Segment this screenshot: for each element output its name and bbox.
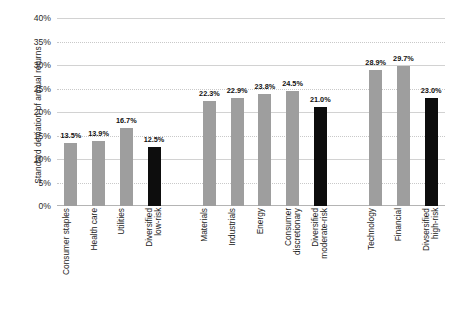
x-axis-category-label: Technology (367, 208, 376, 250)
y-axis-tick-label: 35% (34, 37, 51, 47)
y-axis-tick-label: 20% (34, 107, 51, 117)
bar[interactable] (397, 66, 410, 206)
bar-series: 13.5%13.9%16.7%12.5%22.3%22.9%23.8%24.5%… (57, 18, 445, 206)
bar-value-label: 28.9% (365, 58, 386, 67)
bar-slot: 22.9% (231, 18, 244, 206)
bar-slot: 29.7% (397, 18, 410, 206)
x-axis-category-label: Consumer discretionary (284, 208, 302, 255)
bar[interactable] (120, 128, 133, 206)
x-axis-category-label: Energy (256, 208, 265, 234)
bar[interactable] (148, 147, 161, 206)
bar-slot: 24.5% (286, 18, 299, 206)
bar-value-label: 13.5% (60, 131, 81, 140)
x-axis-category-label: Industrials (228, 208, 237, 246)
bar-chart: Standard deviation of annual returns 0%5… (0, 0, 452, 317)
x-axis-category-label: Health care (90, 208, 99, 250)
bar-value-label: 23.0% (421, 86, 442, 95)
bar-value-label: 22.9% (227, 86, 248, 95)
x-axis-category-label: Materials (200, 208, 209, 242)
bar[interactable] (92, 141, 105, 206)
bar[interactable] (369, 70, 382, 206)
x-axis-category-label: Diversified low-risk (145, 208, 163, 247)
bar-value-label: 12.5% (144, 135, 165, 144)
y-axis-tick-label: 40% (34, 13, 51, 23)
bar[interactable] (258, 94, 271, 206)
bar-slot: 16.7% (120, 18, 133, 206)
plot-area: 0%5%10%15%20%25%30%35%40% 13.5%13.9%16.7… (57, 18, 445, 206)
bar[interactable] (425, 98, 438, 206)
y-axis-tick-label: 25% (34, 84, 51, 94)
y-axis-tick-label: 10% (34, 154, 51, 164)
bar-value-label: 21.0% (310, 95, 331, 104)
x-axis-category-label: Consumer staples (62, 208, 71, 275)
bar-slot: 23.0% (425, 18, 438, 206)
bar[interactable] (231, 98, 244, 206)
x-axis-category-labels: Consumer staplesHealth careUtilitiesDive… (57, 208, 445, 317)
bar[interactable] (286, 91, 299, 206)
bar-slot: 12.5% (148, 18, 161, 206)
y-axis-tick-label: 5% (39, 178, 51, 188)
bar-slot: 22.3% (203, 18, 216, 206)
bar-value-label: 13.9% (88, 129, 109, 138)
bar-slot: 13.9% (92, 18, 105, 206)
bar-slot: 21.0% (314, 18, 327, 206)
bar[interactable] (314, 107, 327, 206)
bar[interactable] (64, 143, 77, 206)
bar-value-label: 22.3% (199, 89, 220, 98)
bar-value-label: 29.7% (393, 54, 414, 63)
y-axis-tick-label: 0% (39, 201, 51, 211)
bar-slot: 13.5% (64, 18, 77, 206)
bar-slot: 28.9% (369, 18, 382, 206)
bar-slot: 23.8% (258, 18, 271, 206)
x-axis-category-label: Financial (394, 208, 403, 241)
bar[interactable] (203, 101, 216, 206)
bar-value-label: 23.8% (254, 82, 275, 91)
x-axis-category-label: Divsersified high-risk (422, 208, 440, 251)
bar-value-label: 24.5% (282, 79, 303, 88)
y-axis-tick-label: 15% (34, 131, 51, 141)
bar-value-label: 16.7% (116, 116, 137, 125)
y-axis-tick-label: 30% (34, 60, 51, 70)
x-axis-category-label: Utilities (117, 208, 126, 235)
x-axis-category-label: Diversified moderate-risk (311, 208, 329, 259)
